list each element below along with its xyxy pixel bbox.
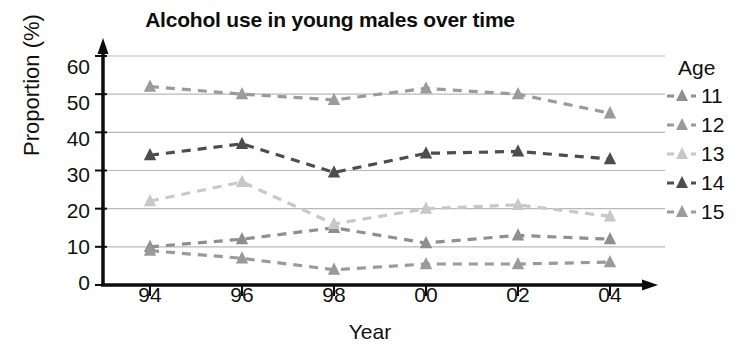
x-tick-02: 02 [488, 283, 548, 307]
series-14 [144, 137, 616, 178]
legend-item-14[interactable]: 14 [666, 168, 740, 197]
data-point-marker [604, 232, 616, 244]
series-line [150, 251, 610, 270]
chart-figure: Alcohol use in young males over time Pro… [0, 0, 740, 356]
data-point-marker [604, 152, 616, 164]
legend-items: 1112131415 [666, 81, 740, 226]
series-lines [144, 79, 616, 274]
x-tick-94: 94 [120, 283, 180, 307]
axis-lines [95, 38, 658, 296]
y-axis-ticks [95, 56, 107, 285]
legend-title: Age [678, 56, 740, 79]
legend-item-15[interactable]: 15 [666, 197, 740, 226]
legend: Age 1112131415 [666, 56, 740, 226]
x-tick-98: 98 [304, 283, 364, 307]
legend-item-13[interactable]: 13 [666, 139, 740, 168]
legend-marker-icon [666, 88, 700, 104]
legend-marker-icon [666, 175, 700, 191]
legend-label: 13 [701, 143, 724, 164]
data-point-marker [236, 175, 248, 187]
series-line [150, 182, 610, 224]
series-line [150, 228, 610, 247]
data-point-marker [604, 106, 616, 118]
x-axis-tick-labels: 94 96 98 00 02 04 [0, 283, 740, 313]
legend-label: 11 [701, 85, 723, 106]
legend-label: 12 [701, 114, 724, 135]
legend-item-12[interactable]: 12 [666, 110, 740, 139]
series-12 [144, 244, 616, 275]
x-axis-title: Year [100, 320, 640, 344]
x-tick-00: 00 [396, 283, 456, 307]
series-line [150, 87, 610, 114]
legend-label: 15 [701, 201, 724, 222]
series-15 [144, 79, 616, 118]
legend-marker-icon [666, 204, 700, 220]
series-line [150, 144, 610, 173]
x-tick-96: 96 [212, 283, 272, 307]
series-13 [144, 175, 616, 229]
legend-marker-icon [666, 146, 700, 162]
legend-item-11[interactable]: 11 [666, 81, 740, 110]
x-tick-04: 04 [580, 283, 640, 307]
legend-marker-icon [666, 117, 700, 133]
data-point-marker [420, 146, 432, 158]
legend-label: 14 [701, 172, 724, 193]
data-point-marker [512, 87, 524, 99]
